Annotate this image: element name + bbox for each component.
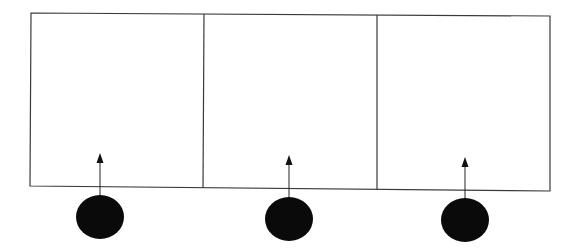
filled-circle-node	[265, 197, 313, 241]
arrowhead-icon	[462, 157, 469, 167]
panel-1	[76, 153, 124, 239]
divider-line-1	[203, 14, 204, 188]
panels	[76, 153, 489, 242]
panel-2	[265, 155, 313, 241]
arrowhead-icon	[286, 155, 293, 165]
diagram-canvas	[0, 0, 578, 251]
filled-circle-node	[76, 195, 124, 239]
filled-circle-node	[441, 198, 489, 242]
panel-3	[441, 157, 489, 242]
arrowhead-icon	[97, 153, 104, 163]
